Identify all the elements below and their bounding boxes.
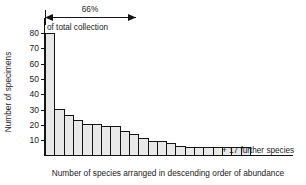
y-tick-label: 40 bbox=[30, 89, 40, 99]
bar bbox=[46, 33, 55, 156]
percent-annotation: 66% of total collection bbox=[45, 5, 136, 32]
bar bbox=[176, 146, 185, 155]
bar bbox=[167, 143, 176, 155]
y-tick-label: 10 bbox=[30, 135, 40, 145]
bar bbox=[129, 134, 138, 155]
bar bbox=[120, 131, 129, 156]
bar-series bbox=[46, 33, 251, 156]
y-tick-label: 20 bbox=[30, 120, 40, 130]
percent-subtitle: of total collection bbox=[47, 23, 108, 32]
bar bbox=[83, 125, 92, 156]
y-axis-tick-labels: 1020304050607080 bbox=[30, 28, 40, 145]
arrow-right-icon bbox=[128, 14, 136, 21]
y-tick-label: 30 bbox=[30, 105, 40, 115]
bar bbox=[73, 120, 82, 155]
y-axis-title: Number of specimens bbox=[3, 52, 13, 133]
y-tick-label: 80 bbox=[30, 28, 40, 38]
bar bbox=[92, 125, 101, 156]
bar bbox=[157, 142, 166, 156]
bar bbox=[148, 142, 157, 156]
bar bbox=[139, 139, 148, 156]
y-tick-label: 70 bbox=[30, 43, 40, 53]
y-tick-label: 50 bbox=[30, 74, 40, 84]
bar bbox=[64, 116, 73, 156]
bar bbox=[204, 148, 213, 156]
chart-figure: 1020304050607080 66% of total collection… bbox=[0, 0, 306, 185]
bar-chart-canvas: 1020304050607080 66% of total collection… bbox=[0, 0, 306, 185]
tail-note-label: + 17 further species bbox=[222, 146, 294, 155]
bar bbox=[101, 126, 110, 155]
bar bbox=[195, 148, 204, 156]
bar bbox=[111, 126, 120, 155]
x-axis-title: Number of species arranged in descending… bbox=[52, 168, 285, 178]
bar bbox=[185, 148, 194, 156]
arrow-left-icon bbox=[45, 14, 53, 21]
bar bbox=[55, 110, 64, 156]
y-tick-label: 60 bbox=[30, 59, 40, 69]
percent-label: 66% bbox=[82, 5, 98, 14]
